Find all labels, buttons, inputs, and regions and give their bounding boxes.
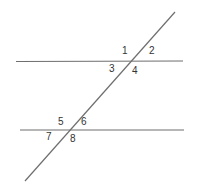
angles-diagram: 1 2 3 4 5 6 7 8 [0,0,200,194]
angle-label-8: 8 [70,133,76,144]
angle-label-1: 1 [122,45,128,56]
top-parallel-line [16,61,183,62]
angle-label-7: 7 [46,131,52,142]
angle-label-6: 6 [81,116,87,127]
angle-label-3: 3 [109,63,115,74]
angle-label-5: 5 [58,116,64,127]
angle-label-2: 2 [149,45,155,56]
angle-label-4: 4 [132,65,138,76]
transversal-line [25,12,175,181]
